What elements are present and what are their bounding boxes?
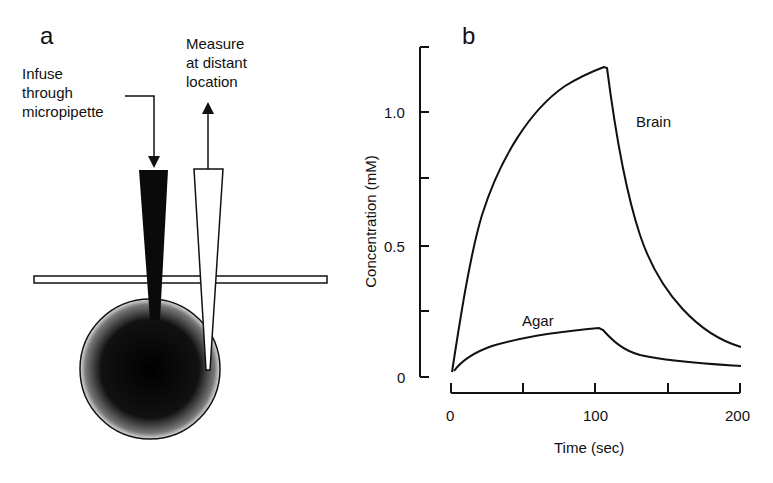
chart-b	[420, 47, 741, 393]
ytick-0-5: 0.5	[384, 237, 405, 256]
x-axis-title: Time (sec)	[554, 438, 624, 457]
y-axis-title: Concentration (mM)	[361, 147, 380, 297]
xtick-200: 200	[725, 406, 750, 425]
brain-curve	[452, 67, 741, 372]
brain-label: Brain	[636, 112, 671, 131]
xtick-0: 0	[446, 406, 454, 425]
agar-curve	[454, 328, 741, 371]
panel-b-letter: b	[462, 22, 475, 50]
infuse-arrow	[125, 96, 154, 164]
arrow-down-icon	[148, 156, 160, 168]
ytick-1-0: 1.0	[384, 103, 405, 122]
xtick-100: 100	[583, 406, 608, 425]
slide-bar	[34, 276, 327, 283]
ytick-0: 0	[397, 368, 405, 387]
infusion-pipette	[139, 170, 168, 320]
arrow-up-icon	[202, 102, 214, 114]
agar-label: Agar	[522, 311, 554, 330]
